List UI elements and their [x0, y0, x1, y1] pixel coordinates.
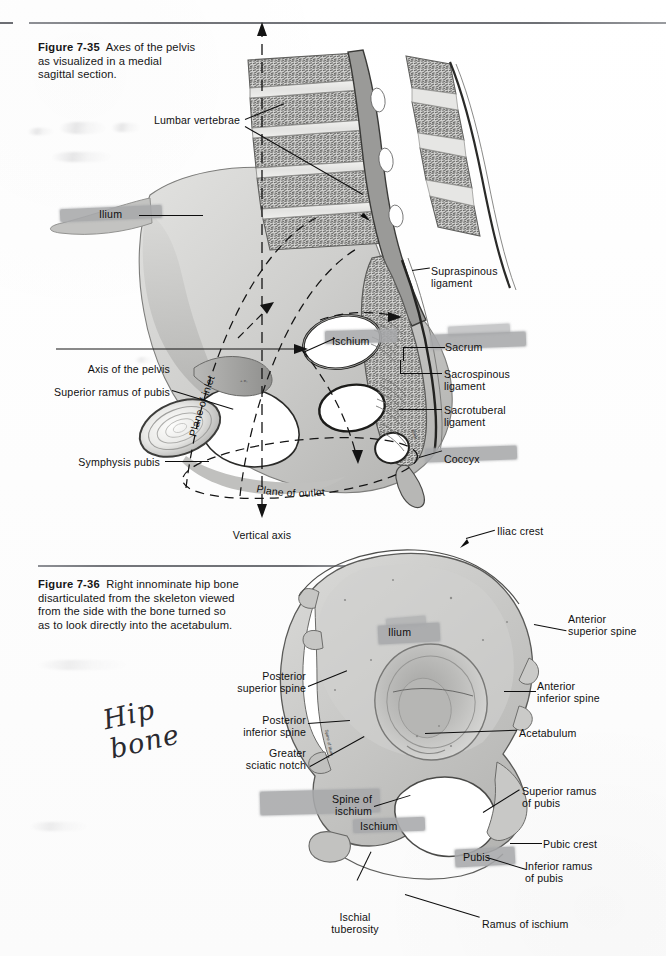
leader-iliac-crest-arrowhead [459, 538, 471, 550]
anterior-superior-line1: Anterior [568, 613, 606, 625]
label-pubic-crest: Pubic crest [543, 838, 597, 850]
figure-736-caption: Figure 7-36 Right innominate hip bone di… [38, 578, 288, 632]
supraspinous-line2: ligament [431, 277, 472, 289]
handwritten-hip-bone-annotation: Hip bone [100, 690, 183, 764]
posterior-superior-line1: Posterior [262, 670, 306, 682]
leader-sacrum-735 [403, 347, 445, 348]
faint-pencil-mark: + e, [240, 378, 247, 383]
label-inferior-ramus-of-pubis: Inferior ramus of pubis [525, 860, 635, 885]
label-iliac-crest: Iliac crest [497, 525, 543, 537]
label-superior-ramus-of-pubis-736: Superior ramus of pubis [522, 785, 632, 810]
ischial-tuberosity-shape [309, 832, 350, 862]
label-ischium-736: Ischium [360, 820, 398, 832]
leader-sacrum-vert [403, 347, 404, 361]
ischial-tuberosity-line1: Ischial [339, 911, 370, 923]
label-symphysis-pubis: Symphysis pubis [30, 456, 160, 468]
anterior-inferior-line2: inferior spine [537, 692, 600, 704]
scan-smudge [38, 660, 128, 670]
inferior-ramus-line1: Inferior ramus [525, 860, 592, 872]
spine-of-ischium-line1: Spine of [332, 793, 372, 805]
figure-736-caption-line2: disarticulated from the skeleton viewed [38, 592, 235, 604]
label-greater-sciatic-notch: Greater sciatic notch [200, 747, 306, 772]
leader-symphysis-pubis [165, 461, 209, 462]
label-ramus-of-ischium: Ramus of ischium [482, 918, 569, 930]
label-axis-of-the-pelvis: Axis of the pelvis [30, 363, 170, 375]
label-posterior-superior-spine: Posterior superior spine [196, 670, 306, 695]
posterior-superior-line2: superior spine [237, 682, 306, 694]
label-ilium-735: Ilium [99, 208, 122, 220]
sacrotuberal-line1: Sacrotuberal [444, 404, 506, 416]
superior-ramus-736-line1: Superior ramus [522, 785, 597, 797]
posterior-inferior-line2: inferior spine [243, 726, 306, 738]
leader-sacrospinous-vert [400, 360, 401, 374]
label-ischial-tuberosity: Ischial tuberosity [310, 911, 400, 936]
leader-ilium-735 [139, 215, 203, 216]
anterior-superior-line2: superior spine [568, 625, 637, 637]
scan-smudge [28, 128, 54, 135]
label-spine-of-ischium: Spine of ischium [262, 793, 372, 818]
label-anterior-superior-spine: Anterior superior spine [568, 613, 666, 638]
anterior-inferior-line1: Anterior [537, 680, 575, 692]
posterior-inferior-spine-bump [303, 630, 323, 649]
label-superior-ramus-of-pubis-735: Superior ramus of pubis [20, 386, 170, 398]
top-rule-tick [0, 22, 13, 24]
figure-736-number: Figure 7-36 [38, 578, 100, 590]
label-lumbar-vertebrae: Lumbar vertebrae [100, 114, 240, 126]
figure-735-caption-line3: sagittal section. [38, 68, 117, 80]
label-posterior-inferior-spine: Posterior inferior spine [196, 714, 306, 739]
label-sacrotuberal-ligament: Sacrotuberal ligament [444, 404, 544, 429]
leader-sacrotuberal [399, 409, 442, 410]
label-ischium-735: Ischium [332, 335, 370, 347]
figure-736-caption-line3: from the side with the bone turned so [38, 605, 226, 617]
vertical-axis-arrow-top [257, 22, 267, 36]
figure-735-number: Figure 7-35 [38, 41, 100, 53]
spine-of-ischium-line2: ischium [335, 805, 372, 817]
label-sacrospinous-ligament: Sacrospinous ligament [444, 368, 544, 393]
label-acetabulum: Acetabulum [519, 727, 576, 739]
label-sacrum-735: Sacrum [445, 341, 482, 353]
scan-smudge [30, 822, 88, 831]
label-coccyx-735: Coccyx [444, 453, 480, 465]
textbook-page: Figure 7-35 Axes of the pelvis as visual… [0, 0, 666, 956]
leader-sacrospinous [400, 373, 442, 374]
posterior-inferior-line1: Posterior [262, 714, 306, 726]
supraspinous-line1: Supraspinous [431, 265, 498, 277]
leader-lumbar-arrowhead [358, 210, 372, 224]
sacrospinous-line1: Sacrospinous [444, 368, 510, 380]
figure-736-caption-line1: Right innominate hip bone [106, 578, 239, 590]
label-supraspinous-ligament: Supraspinous ligament [431, 265, 527, 290]
label-anterior-inferior-spine: Anterior inferior spine [537, 680, 637, 705]
leader-anterior-inferior-spine [504, 691, 536, 692]
sacrospinous-line2: ligament [444, 380, 485, 392]
coccyx-shape [396, 465, 425, 507]
greater-sciatic-line2: sciatic notch [246, 759, 306, 771]
label-ilium-736: Ilium [388, 626, 411, 638]
figure-736-caption-line4: as to look directly into the acetabulum. [38, 619, 232, 631]
greater-sciatic-line1: Greater [269, 747, 306, 759]
ischial-tuberosity-line2: tuberosity [331, 923, 378, 935]
sacrotuberal-line2: ligament [444, 416, 485, 428]
vertical-axis-arrow-bottom [257, 504, 267, 518]
leader-pubic-crest [510, 843, 542, 844]
superior-ramus-736-line2: of pubis [522, 797, 560, 809]
inferior-ramus-line2: of pubis [525, 872, 563, 884]
scan-smudge [52, 152, 112, 162]
